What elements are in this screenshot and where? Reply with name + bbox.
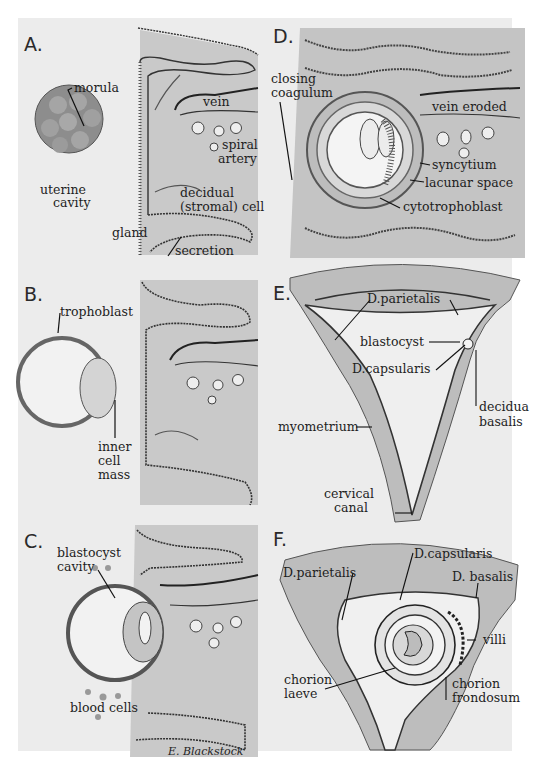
panel-label-e: E. [273,282,291,304]
panel-b-endometrium [140,280,258,505]
morula [35,85,103,153]
label-spiral-artery-2: artery [218,152,257,166]
label-closing-coagulum-1: closing [271,72,316,86]
label-decidua-basalis-1: decidua [479,400,529,414]
label-cytotrophoblast: cytotrophoblast [403,200,503,214]
label-secretion: secretion [175,244,234,258]
panel-label-c: C. [24,530,43,552]
label-inner-cell-mass-3: mass [98,468,130,482]
label-chorion-laeve-2: laeve [284,687,317,701]
artist-signature: E. Blackstock [168,745,244,758]
label-chorion-frondosum-1: chorion [452,677,500,691]
panel-label-f: F. [273,528,287,550]
label-d-basalis-f: D. basalis [452,570,513,584]
panel-label-b: B. [24,283,43,305]
label-decidua-basalis-2: basalis [479,415,523,429]
blastocyst-b [18,313,116,438]
illustration-drawing [0,0,539,772]
label-closing-coagulum-2: coagulum [271,86,333,100]
label-blastocyst-e: blastocyst [360,335,424,349]
label-villi: villi [483,633,506,647]
label-blood-cells: blood cells [70,701,138,715]
label-myometrium: myometrium [278,420,359,434]
label-trophoblast: trophoblast [60,305,133,319]
label-decidual-cell-1: decidual [180,186,234,200]
label-d-parietalis-e: D.parietalis [367,292,440,306]
panel-label-a: A. [24,33,43,55]
label-blastocyst-cavity-2: cavity [57,560,95,574]
label-chorion-laeve-1: chorion [284,673,332,687]
label-uterine-cavity-2: cavity [53,196,91,210]
label-d-capsularis-e: D.capsularis [352,362,430,376]
label-lacunar-space: lacunar space [425,176,513,190]
label-cervical-canal-2: canal [334,501,368,515]
label-d-parietalis-f: D.parietalis [283,566,356,580]
label-morula: morula [74,81,119,95]
panel-label-d: D. [273,25,294,47]
label-blastocyst-cavity-1: blastocyst [57,546,121,560]
label-syncytium: syncytium [432,158,497,172]
label-spiral-artery-1: spiral [222,138,258,152]
label-d-capsularis-f: D.capsularis [414,547,492,561]
label-chorion-frondosum-2: frondosum [452,691,520,705]
label-vein: vein [203,95,230,109]
label-vein-eroded: vein eroded [432,100,507,114]
label-gland: gland [112,226,148,240]
label-inner-cell-mass-2: cell [98,454,120,468]
label-cervical-canal-1: cervical [324,487,374,501]
label-inner-cell-mass-1: inner [98,440,131,454]
label-decidual-cell-2: (stromal) cell [180,200,264,214]
